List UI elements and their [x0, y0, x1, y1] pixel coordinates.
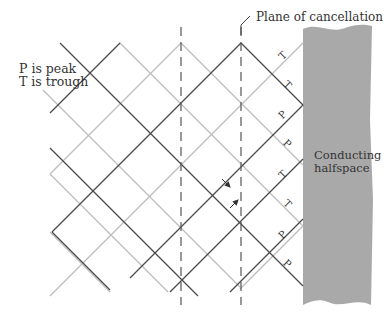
peak-trough-markers: TTPPTTPP [276, 49, 294, 270]
plane-leader-line [241, 16, 250, 35]
dark-wavefront [52, 43, 241, 232]
light-wavefront [240, 226, 303, 289]
propagation-arrow-icon [222, 179, 230, 187]
propagation-arrow-icon [230, 200, 238, 208]
trough-marker: T [276, 49, 289, 62]
light-wavefront [50, 174, 168, 292]
standing-wave-diagram: TTPPTTPP P is peak T is trough Plane of … [0, 0, 392, 319]
legend-trough: T is trough [19, 74, 88, 89]
light-wavefront [50, 232, 110, 292]
dark-wavefront [52, 232, 110, 290]
conductor-label-line1: Conducting [314, 148, 382, 162]
plane-of-cancellation-label: Plane of cancellation [256, 10, 383, 24]
peak-marker: P [281, 137, 294, 150]
peak-marker: P [276, 108, 289, 121]
peak-marker: P [276, 228, 289, 241]
peak-marker: P [281, 257, 294, 270]
trough-marker: T [281, 78, 294, 91]
trough-marker: T [276, 168, 289, 181]
dashed-planes [181, 27, 241, 305]
trough-marker: T [281, 197, 294, 210]
light-wavefront [43, 90, 240, 287]
conductor-label-line2: halfspace [314, 161, 370, 175]
